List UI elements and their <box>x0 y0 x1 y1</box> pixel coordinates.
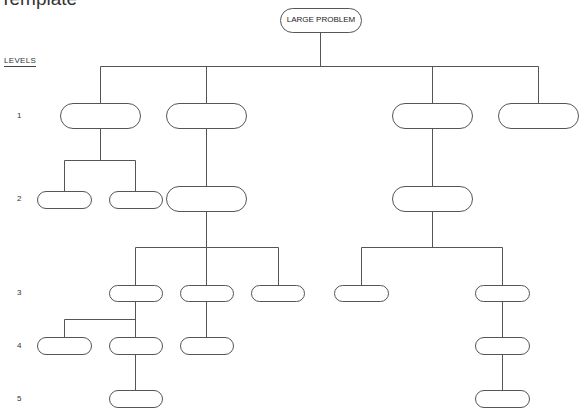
node-L2-b <box>110 192 163 209</box>
node-L5-a <box>110 391 163 408</box>
hierarchy-diagram <box>0 0 581 414</box>
node-L2-c <box>167 187 247 212</box>
node-L3-e <box>476 286 530 302</box>
node-L3-a <box>110 286 163 302</box>
node-L4-a <box>38 338 92 355</box>
node-L2-a <box>38 192 92 209</box>
node-L2-d <box>393 187 473 212</box>
root-node-label: LARGE PROBLEM <box>280 8 362 32</box>
node-L4-d <box>476 338 530 355</box>
connectors <box>65 32 539 390</box>
node-L1-a <box>61 104 141 129</box>
node-L1-c <box>393 104 473 129</box>
node-L3-c <box>252 286 305 302</box>
node-L4-c <box>181 338 234 355</box>
node-L5-b <box>476 391 530 408</box>
node-L1-d <box>499 104 579 129</box>
node-L1-b <box>167 104 247 129</box>
node-L3-b <box>181 286 234 302</box>
node-L4-b <box>110 338 163 355</box>
node-L3-d <box>335 286 389 302</box>
